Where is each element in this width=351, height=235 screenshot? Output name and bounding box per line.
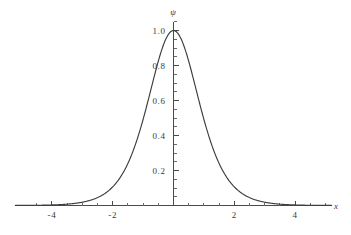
y-tick-label: 0.8 (152, 61, 165, 71)
y-tick-label: 1.0 (152, 26, 165, 36)
x-tick-label: -4 (48, 210, 57, 220)
y-tick-label: 0.4 (152, 131, 165, 141)
x-tick-label: 4 (293, 210, 298, 220)
x-tick-label: -2 (108, 210, 117, 220)
x-tick-label: 2 (232, 210, 237, 220)
chart-figure: -4-224 0.20.40.60.81.0 x ψ (0, 0, 351, 235)
x-axis-title: x (333, 201, 338, 211)
y-tick-label: 0.2 (152, 166, 165, 176)
plot-canvas: -4-224 0.20.40.60.81.0 x ψ (0, 0, 351, 235)
y-tick-label: 0.6 (152, 96, 165, 106)
x-axis-tick-labels: -4-224 (48, 210, 298, 220)
y-axis-major-ticks (174, 31, 179, 171)
y-axis-tick-labels: 0.20.40.60.81.0 (152, 26, 165, 176)
y-axis-title: ψ (170, 7, 176, 17)
